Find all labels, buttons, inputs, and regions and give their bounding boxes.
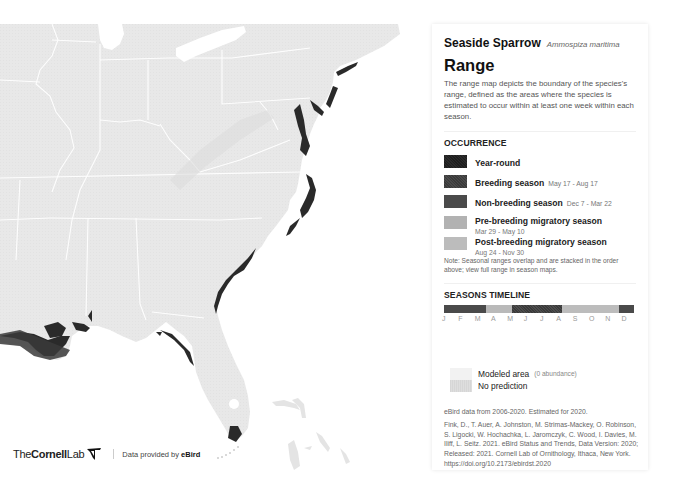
species-header: Seaside Sparrow Ammospiza maritima [444,36,636,50]
data-years: eBird data from 2006-2020. Estimated for… [444,408,636,415]
timeline-postbreeding [562,305,619,313]
cornell-lab-logo[interactable]: TheCornellLab [13,447,102,461]
modeled-area-swatch [450,368,472,380]
month-label: A [491,315,507,322]
legend-item-nonbreeding: Non-breeding seasonDec 7 - Mar 22 [444,192,636,210]
modeled-area-legend: Modeled area (0 abundance) No prediction [450,368,636,392]
footer-divider [113,449,114,459]
divider [444,283,636,284]
land-mass [0,24,400,440]
bird-logo-icon [86,447,102,461]
data-credit: Data provided by eBird [122,450,200,459]
legend-no-prediction: No prediction [450,380,636,392]
seasons-timeline-bar [444,305,634,313]
legend-dates: Aug 24 - Nov 30 [475,249,607,256]
legend-label: Non-breeding season [475,198,563,208]
timeline-prebreeding [486,305,512,313]
occurrence-note: Note: Seasonal ranges overlap and are st… [444,256,640,274]
legend-label: Post-breeding migratory season [475,237,607,247]
modeled-area-sub: (0 abundance) [534,370,577,377]
postbreeding-swatch [444,237,467,250]
data-credit-text: Data provided by [122,450,181,459]
timeline-nonbreeding-end [619,305,634,313]
occurrence-legend: Year-round Breeding seasonMay 17 - Aug 1… [444,152,636,253]
nonbreeding-swatch [444,195,467,208]
month-label: J [442,315,458,322]
year-round-swatch [444,155,467,168]
month-label: J [524,315,540,322]
lake-okeechobee [229,399,239,409]
prebreeding-swatch [444,216,467,229]
legend-dates: May 17 - Aug 17 [548,180,598,187]
species-common-name: Seaside Sparrow [444,36,541,50]
ebird-link[interactable]: eBird [181,450,200,459]
map-footer: TheCornellLab Data provided by eBird [13,443,200,465]
range-description: The range map depicts the boundary of th… [444,78,640,122]
legend-item-breeding: Breeding seasonMay 17 - Aug 17 [444,172,636,190]
logo-cornell: Cornell [31,448,67,460]
modeled-area-label: Modeled area [478,369,529,379]
timeline-breeding [512,305,562,313]
legend-item-postbreeding: Post-breeding migratory seasonAug 24 - N… [444,234,636,253]
breeding-swatch [444,175,467,188]
legend-item-prebreeding: Pre-breeding migratory seasonMar 29 - Ma… [444,213,636,232]
month-label: N [605,315,621,322]
timeline-months: J F M A M J J A S O N D [442,315,638,322]
month-label: F [458,315,474,322]
legend-item-year-round: Year-round [444,152,636,170]
divider [444,131,636,132]
no-prediction-label: No prediction [478,381,527,391]
legend-label: Year-round [475,158,520,168]
month-label: M [507,315,523,322]
month-label: A [556,315,572,322]
range-title: Range [444,56,636,75]
month-label: M [475,315,491,322]
bahamas [272,398,350,470]
no-prediction-swatch [450,380,472,392]
florida-keys [217,446,239,459]
species-scientific-name: Ammospiza maritima [547,40,620,49]
logo-lab: Lab [67,448,84,460]
legend-dates: Dec 7 - Mar 22 [567,200,612,207]
timeline-heading: SEASONS TIMELINE [444,290,636,300]
month-label: D [622,315,638,322]
legend-label: Pre-breeding migratory season [475,216,602,226]
timeline-nonbreeding-start [444,305,486,313]
range-legend-panel: Seaside Sparrow Ammospiza maritima Range… [432,24,648,470]
month-label: S [573,315,589,322]
legend-modeled-area: Modeled area (0 abundance) [450,368,636,380]
logo-the: The [13,448,31,460]
occurrence-heading: OCCURRENCE [444,138,636,148]
month-label: O [589,315,605,322]
citation: Fink, D., T. Auer, A. Johnston, M. Strim… [444,420,640,469]
month-label: J [540,315,556,322]
legend-label: Breeding season [475,178,544,188]
